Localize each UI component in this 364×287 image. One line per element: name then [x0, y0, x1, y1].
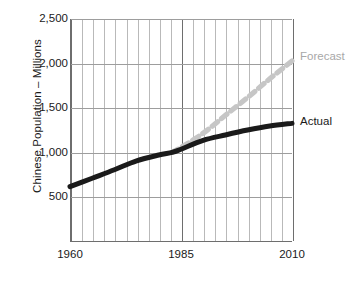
- gridline-horizontal: [71, 153, 292, 154]
- x-axis-tick-label: 1985: [151, 248, 211, 260]
- x-axis-tick-label: 1960: [40, 248, 100, 260]
- gridline-vertical: [271, 19, 272, 241]
- gridline-vertical: [71, 19, 72, 241]
- plot-area: [70, 19, 292, 242]
- gridline-horizontal: [71, 197, 292, 198]
- actual-series-label: Actual: [300, 115, 332, 127]
- y-axis-tick-label: 2,000: [8, 57, 68, 69]
- y-axis-tick-label: 2,500: [8, 12, 68, 24]
- y-axis-tick-label: 1,000: [8, 146, 68, 158]
- gridline-vertical-minor: [215, 19, 216, 241]
- gridline-vertical: [226, 19, 227, 241]
- y-axis-tick-label: 500: [8, 190, 68, 202]
- gridline-vertical: [138, 19, 139, 241]
- gridline-horizontal: [71, 64, 292, 65]
- gridline-vertical-minor: [238, 19, 239, 241]
- gridline-horizontal: [71, 19, 292, 20]
- x-axis-tick-label: 2010: [262, 248, 322, 260]
- gridline-vertical-minor: [104, 19, 105, 241]
- y-axis-tick-label: 1,500: [8, 101, 68, 113]
- gridline-vertical: [93, 19, 94, 241]
- forecast-series-label: Forecast: [300, 50, 345, 62]
- gridline-vertical-minor: [193, 19, 194, 241]
- gridline-vertical: [204, 19, 205, 241]
- gridline-vertical-minor: [82, 19, 83, 241]
- gridline-vertical: [160, 19, 161, 241]
- gridline-vertical: [115, 19, 116, 241]
- gridline-horizontal: [71, 108, 292, 109]
- chart-root: Chinese Population – Millions 5001,0001,…: [0, 0, 364, 287]
- gridline-vertical-minor: [282, 19, 283, 241]
- gridline-vertical: [293, 19, 294, 241]
- gridline-vertical-minor: [260, 19, 261, 241]
- gridline-vertical-minor: [127, 19, 128, 241]
- gridline-vertical-minor: [171, 19, 172, 241]
- gridline-vertical: [182, 19, 183, 241]
- gridline-vertical: [249, 19, 250, 241]
- gridline-vertical-minor: [149, 19, 150, 241]
